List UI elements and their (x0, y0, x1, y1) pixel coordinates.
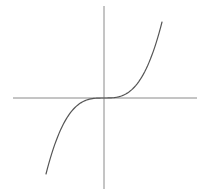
cubic-function-plot (0, 0, 208, 189)
